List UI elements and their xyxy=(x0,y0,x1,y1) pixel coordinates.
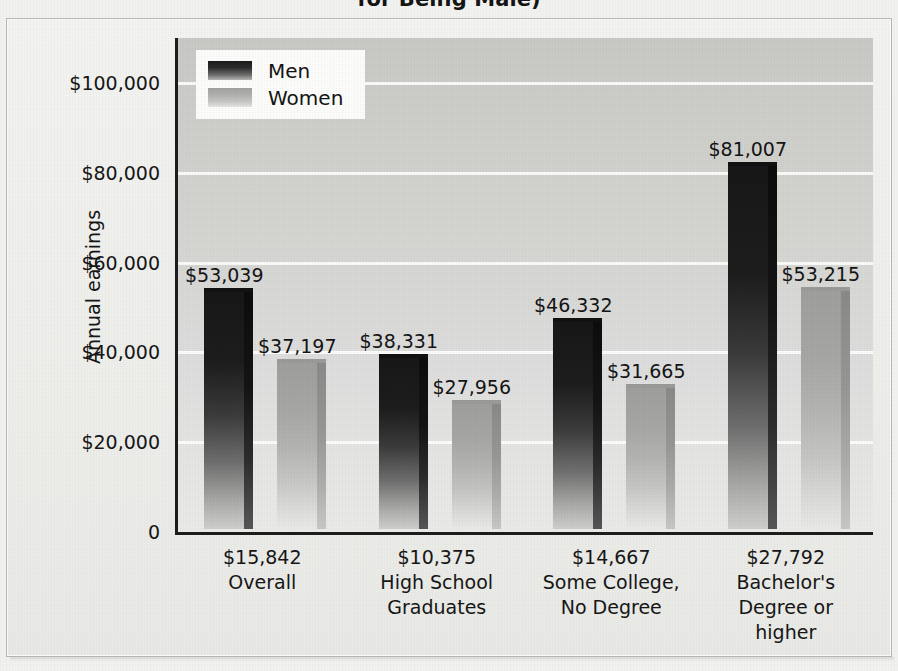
bar-group: $46,332$31,665 xyxy=(527,38,702,532)
y-axis-tick-label: $60,000 xyxy=(81,252,160,274)
x-axis-group-label: $27,792Bachelor'sDegree orhigher xyxy=(699,545,874,645)
legend-item-women: Women xyxy=(208,84,343,111)
category-name-line: Degree or xyxy=(699,595,874,620)
x-axis-group-label: $10,375High SchoolGraduates xyxy=(350,545,525,620)
bar-value-label: $53,039 xyxy=(185,266,264,285)
bar-face xyxy=(626,387,666,529)
bar-face xyxy=(801,290,841,529)
wage-gap-value: $27,792 xyxy=(699,545,874,570)
bar-men xyxy=(379,357,419,529)
category-name-line: Bachelor's xyxy=(699,570,874,595)
y-axis-tick-label: $20,000 xyxy=(81,431,160,453)
bar-side-3d xyxy=(492,403,501,529)
bar-top-cap xyxy=(553,318,602,322)
bar-face xyxy=(728,165,768,529)
category-name-line: High School xyxy=(350,570,525,595)
x-axis-group-label: $15,842Overall xyxy=(175,545,350,595)
legend-label: Women xyxy=(268,88,343,108)
legend: MenWomen xyxy=(196,50,365,119)
men-swatch xyxy=(208,61,252,80)
y-axis-tick-label: $80,000 xyxy=(81,162,160,184)
bar-pair: $46,332$31,665 xyxy=(553,38,675,532)
bar-side-3d xyxy=(419,357,428,529)
bar-group: $38,331$27,956 xyxy=(353,38,528,532)
y-axis-tick-label: $100,000 xyxy=(69,72,160,94)
bar-pair: $81,007$53,215 xyxy=(728,38,850,532)
bar-women xyxy=(626,387,666,529)
category-name-line: higher xyxy=(699,620,874,645)
bar-women xyxy=(277,362,317,529)
bar-women xyxy=(801,290,841,529)
category-name-line: Some College, xyxy=(524,570,699,595)
y-axis-tick-label: 0 xyxy=(148,521,160,543)
bar-side-3d xyxy=(244,291,253,529)
bar-value-label: $37,197 xyxy=(258,337,337,356)
bar-side-3d xyxy=(317,362,326,529)
category-name-line: Graduates xyxy=(350,595,525,620)
bar-top-cap xyxy=(728,162,777,166)
wage-gap-value: $14,667 xyxy=(524,545,699,570)
legend-label: Men xyxy=(268,61,310,81)
chart-title: for Being Male) xyxy=(0,0,898,13)
bar-value-label: $31,665 xyxy=(607,362,686,381)
category-name-line: No Degree xyxy=(524,595,699,620)
legend-item-men: Men xyxy=(208,57,343,84)
bar-top-cap xyxy=(277,359,326,363)
bar-face xyxy=(277,362,317,529)
bar-value-label: $81,007 xyxy=(708,140,787,159)
bar-men xyxy=(728,165,768,529)
bar-top-cap xyxy=(801,287,850,291)
women-swatch xyxy=(208,88,252,107)
x-axis-labels: $15,842Overall$10,375High SchoolGraduate… xyxy=(175,545,873,663)
bar-group: $81,007$53,215 xyxy=(702,38,877,532)
bar-top-cap xyxy=(626,384,675,388)
figure-page: for Being Male) Annual earnings 0$20,000… xyxy=(0,0,898,671)
bar-pair: $38,331$27,956 xyxy=(379,38,501,532)
bar-top-cap xyxy=(452,400,501,404)
bar-top-cap xyxy=(379,354,428,358)
x-axis-group-label: $14,667Some College,No Degree xyxy=(524,545,699,620)
bar-men xyxy=(204,291,244,529)
category-name-line: Overall xyxy=(175,570,350,595)
bar-side-3d xyxy=(768,165,777,529)
y-axis-tick-label: $40,000 xyxy=(81,341,160,363)
bar-face xyxy=(379,357,419,529)
bar-face xyxy=(452,403,492,529)
bar-men xyxy=(553,321,593,529)
wage-gap-value: $10,375 xyxy=(350,545,525,570)
bar-value-label: $38,331 xyxy=(359,332,438,351)
bar-value-label: $27,956 xyxy=(432,378,511,397)
bar-value-label: $53,215 xyxy=(781,265,860,284)
bar-women xyxy=(452,403,492,529)
bar-value-label: $46,332 xyxy=(534,296,613,315)
bar-side-3d xyxy=(666,387,675,529)
y-axis-tick-labels: 0$20,000$40,000$60,000$80,000$100,000 xyxy=(0,38,168,535)
bar-side-3d xyxy=(841,290,850,529)
wage-gap-value: $15,842 xyxy=(175,545,350,570)
bar-side-3d xyxy=(593,321,602,529)
bar-face xyxy=(204,291,244,529)
bar-face xyxy=(553,321,593,529)
bar-top-cap xyxy=(204,288,253,292)
